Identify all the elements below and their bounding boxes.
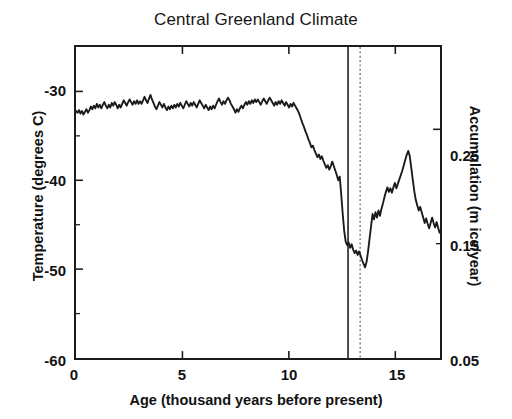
y-axis-title-right: Accumulation (m ice/year) [467, 76, 483, 316]
x-axis-title: Age (thousand years before present) [0, 392, 512, 408]
annotation-lines [348, 47, 360, 358]
x-tick-label-3: 15 [382, 366, 412, 383]
temperature-trace [76, 95, 440, 267]
x-tick-label-2: 10 [274, 366, 304, 383]
chart-figure: Central Greenland Climate -30 -40 -50 -6… [0, 0, 512, 419]
chart-title: Central Greenland Climate [0, 10, 512, 30]
x-tick-label-0: 0 [59, 366, 89, 383]
chart-canvas [76, 47, 440, 358]
axis-ticks [76, 47, 440, 358]
y-tick-label-left-3: -60 [0, 352, 66, 369]
plot-area [74, 45, 442, 360]
x-tick-label-1: 5 [167, 366, 197, 383]
y-axis-title-left: Temperature (degrees C) [30, 76, 46, 316]
y-tick-label-right-2: 0.05 [450, 352, 479, 369]
